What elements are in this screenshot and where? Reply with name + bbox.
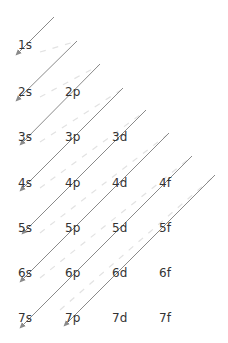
orbital-label: 6s (18, 266, 32, 280)
orbital-label: 1s (18, 38, 32, 52)
diagonal-arrow-icon (20, 64, 100, 145)
orbital-label: 7f (159, 311, 172, 325)
orbital-label: 2p (65, 85, 80, 99)
orbital-label: 4s (18, 176, 32, 190)
orbital-label: 5s (18, 221, 32, 235)
orbital-label: 5f (159, 221, 172, 235)
orbital-label: 3d (112, 130, 127, 144)
diagonal-arrow-icon (64, 175, 215, 326)
orbital-label: 5p (65, 221, 80, 235)
aufbau-diagram: 1s2s2p3s3p3d4s4p4d4f5s5p5d5f6s6p6d6f7s7p… (0, 0, 228, 343)
orbital-label: 5d (112, 221, 127, 235)
orbital-label: 3s (18, 130, 32, 144)
orbital-label: 4d (112, 176, 127, 190)
dashed-connector (40, 135, 167, 233)
dashed-connector (40, 90, 121, 142)
filling-order-arrows (16, 17, 215, 328)
orbital-label: 7p (65, 311, 80, 325)
orbital-labels: 1s2s2p3s3p3d4s4p4d4f5s5p5d5f6s6p6d6f7s7p… (18, 38, 172, 325)
dashed-connector (40, 112, 144, 188)
orbital-label: 7d (112, 311, 127, 325)
orbital-label: 7s (18, 311, 32, 325)
orbital-label: 4f (159, 176, 172, 190)
orbital-label: 4p (65, 176, 80, 190)
orbital-label: 6f (159, 266, 172, 280)
orbital-label: 3p (65, 130, 80, 144)
orbital-label: 6p (65, 266, 80, 280)
diagonal-arrow-icon (20, 133, 169, 282)
orbital-label: 6d (112, 266, 127, 280)
diagonal-arrow-icon (22, 110, 146, 234)
dashed-connector (40, 42, 74, 52)
orbital-label: 2s (18, 85, 32, 99)
